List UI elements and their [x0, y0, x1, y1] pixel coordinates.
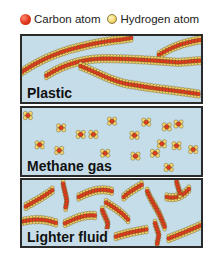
legend-item-carbon: Carbon atom: [20, 13, 100, 25]
legend-item-hydrogen: Hydrogen atom: [107, 13, 199, 25]
legend: Carbon atom Hydrogen atom: [20, 13, 206, 25]
carbon-atom-icon: [20, 14, 31, 25]
plastic-chain-middle: [44, 54, 201, 80]
panel-label-methane: Methane gas: [25, 158, 114, 174]
plastic-chain-lower: [79, 62, 201, 99]
legend-label-carbon: Carbon atom: [34, 13, 100, 25]
panel-label-plastic: Plastic: [25, 85, 74, 101]
panel-plastic: Plastic: [20, 34, 203, 104]
panel-label-lighter: Lighter fluid: [25, 229, 110, 245]
panel-lighter: Lighter fluid: [20, 178, 203, 248]
legend-label-hydrogen: Hydrogen atom: [120, 13, 199, 25]
panel-methane: Methane gas: [20, 106, 203, 177]
hydrogen-atom-icon: [107, 14, 117, 24]
plastic-chain-top-right: [157, 36, 201, 59]
